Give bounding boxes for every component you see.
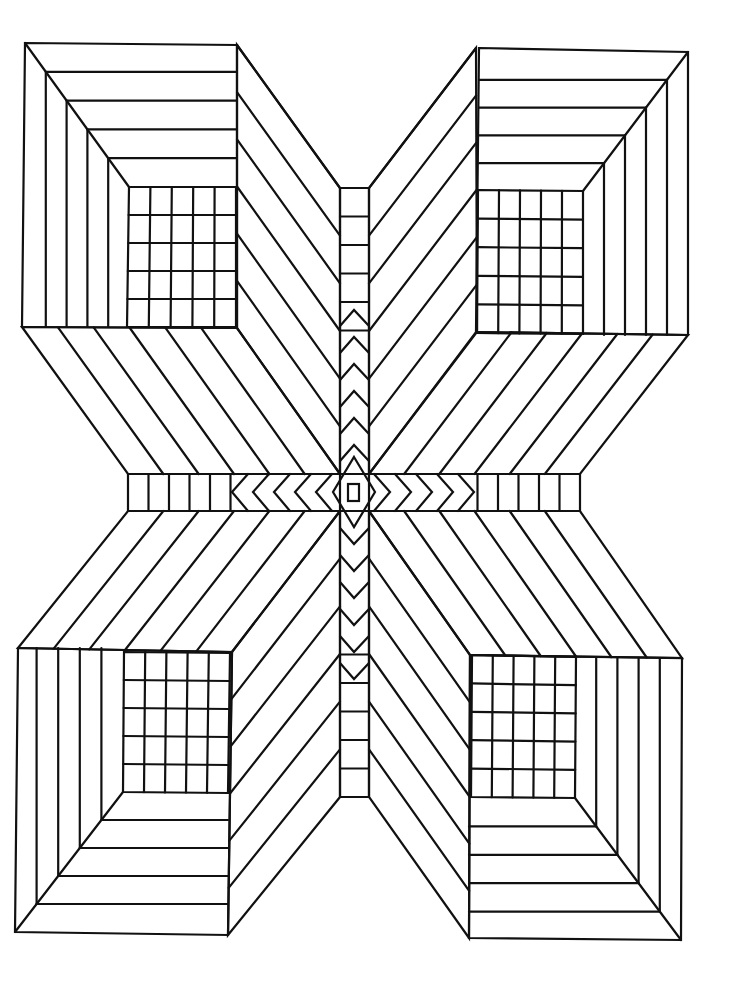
- box-grid-frame-bottom-left: [123, 652, 230, 793]
- bar-cap: [237, 45, 340, 188]
- grid-col: [149, 187, 151, 327]
- geometric-line-drawing: [0, 0, 731, 982]
- chevron-up: [340, 310, 369, 326]
- center-rectangle: [348, 484, 359, 501]
- grid-row: [471, 740, 575, 741]
- grid-col: [554, 657, 555, 798]
- panel-tl-right-stripe: [237, 187, 340, 332]
- grid-row: [123, 764, 228, 765]
- grid-row: [471, 769, 575, 770]
- chevron-up: [340, 364, 369, 380]
- chevron-right: [437, 474, 453, 511]
- panel-br-left-stripe: [369, 559, 470, 703]
- box-diagonal: [575, 798, 681, 940]
- panel-bl-top-stripe: [89, 511, 198, 649]
- chevron-down: [340, 636, 369, 652]
- box-outer-top-left: [22, 43, 237, 328]
- grid-row: [478, 219, 583, 220]
- grid-col: [144, 652, 145, 792]
- grid-col: [498, 190, 499, 333]
- panel-tl-right-stripe: [237, 139, 340, 283]
- panel-tr-bottom-stripe: [439, 333, 546, 474]
- box-diagonal: [25, 43, 129, 187]
- grid-col: [533, 656, 534, 797]
- panel-bl-top-stripe: [196, 511, 304, 651]
- grid-col: [207, 653, 209, 793]
- grid-col: [192, 187, 193, 327]
- box-grid-frame-bottom-right: [471, 655, 576, 798]
- vertical-bar: [340, 188, 369, 797]
- panel-bl-top-stripe: [54, 511, 164, 649]
- chevron-left: [253, 474, 269, 511]
- chevron-left: [232, 474, 248, 511]
- panel-br-left-stripe: [369, 702, 469, 844]
- chevron-right: [458, 474, 474, 511]
- grid-row: [123, 736, 228, 737]
- panel-br-left-stripe: [369, 606, 470, 749]
- chevron-down: [340, 663, 369, 679]
- chevron-down: [340, 582, 369, 598]
- grid-row: [124, 680, 230, 681]
- chevron-up: [340, 391, 369, 407]
- chevron-up: [340, 337, 369, 353]
- chevron-right: [395, 474, 411, 511]
- panel-bl-top-stripe: [161, 511, 270, 651]
- panel-tr-bottom-stripe: [510, 334, 618, 474]
- panel-tr-bottom-stripe: [475, 334, 583, 475]
- artwork-canvas: [0, 0, 731, 982]
- box-diagonal: [583, 52, 688, 191]
- grid-row: [477, 304, 583, 305]
- chevron-up: [340, 418, 369, 434]
- box-grid-frame-top-left: [127, 187, 236, 327]
- panel-bl-top-stripe: [125, 511, 234, 650]
- panel-tl-right-stripe: [237, 234, 340, 379]
- chevron-down: [340, 555, 369, 571]
- grid-row: [478, 247, 583, 248]
- chevron-left: [274, 474, 290, 511]
- chevron-down: [340, 609, 369, 625]
- grid-col: [165, 652, 166, 792]
- panel-tl-right-stripe: [237, 281, 340, 427]
- grid-row: [472, 683, 576, 685]
- horizontal-bar: [128, 474, 580, 511]
- chevron-right: [416, 474, 432, 511]
- grid-col: [186, 653, 188, 793]
- grid-row: [477, 276, 583, 277]
- chevron-right: [374, 474, 390, 511]
- panel-br-left-stripe: [369, 654, 470, 797]
- chevron-down: [340, 528, 369, 544]
- panel-tr-left-stripe: [369, 285, 477, 427]
- chevron-left: [316, 474, 332, 511]
- box-grid-frame-top-right: [477, 190, 583, 334]
- grid-row: [124, 708, 230, 709]
- grid-row: [472, 712, 576, 714]
- chevron-left: [295, 474, 311, 511]
- box-diagonal: [15, 792, 123, 932]
- grid-col: [492, 655, 493, 797]
- panel-tr-left-stripe: [369, 237, 477, 378]
- panel-tr-bottom-stripe: [545, 335, 653, 475]
- grid-col: [171, 187, 172, 327]
- panel-tl-right-stripe: [237, 92, 340, 236]
- grid-col: [513, 656, 514, 798]
- panel-tr-bottom-stripe: [404, 333, 511, 475]
- grid-col: [519, 190, 520, 333]
